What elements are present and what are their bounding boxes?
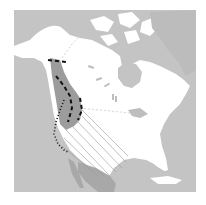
range-map [0, 0, 206, 205]
